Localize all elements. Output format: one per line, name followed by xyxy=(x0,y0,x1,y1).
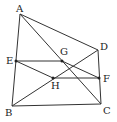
point-label-E: E xyxy=(6,55,13,66)
segment-AC xyxy=(20,14,101,104)
point-label-H: H xyxy=(51,80,60,91)
segment-EH xyxy=(16,61,53,78)
point-label-B: B xyxy=(5,107,12,118)
point-label-F: F xyxy=(103,73,110,84)
segment-BC xyxy=(12,104,101,106)
segment-AD xyxy=(20,14,98,50)
point-E-dot xyxy=(15,60,18,63)
point-label-C: C xyxy=(103,105,111,116)
point-label-D: D xyxy=(100,41,108,52)
point-G-dot xyxy=(61,60,64,63)
point-label-A: A xyxy=(15,3,24,14)
point-label-G: G xyxy=(60,46,68,57)
quadrilateral-figure: ABCDEFGH xyxy=(0,0,117,122)
point-F-dot xyxy=(98,77,101,80)
geometry-diagram: ABCDEFGH xyxy=(0,0,117,122)
